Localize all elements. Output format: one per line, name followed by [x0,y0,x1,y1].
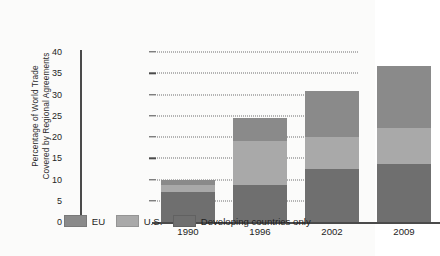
x-tick-label: 1990 [177,226,198,237]
y-tick-mark [149,51,156,52]
legend-item: Developing countries only [173,215,310,227]
y-tick-mark [149,115,156,116]
y-tick-mark [149,94,156,95]
bar-segment [377,66,432,128]
y-tick-mark [149,179,156,180]
legend-item: U.S. [116,215,162,227]
bar-segment [377,128,432,165]
legend-label: Developing countries only [201,216,311,227]
bar-segment [305,91,360,137]
gridline [157,73,358,74]
x-tick-label: 2009 [393,226,414,237]
plot-area: 0510152025303540 1990199620022009 [80,26,358,196]
y-axis-line [80,50,82,224]
bar-segment [161,185,216,192]
legend-swatch [64,215,87,227]
y-tick-mark [149,200,156,201]
bar-segment [377,164,432,222]
y-axis-title-line1: Percentage of World Trade [30,65,40,167]
chart-legend: EUU.S.Developing countries only [0,215,375,227]
x-tick-label: 2002 [321,226,342,237]
y-tick-label: 30 [42,90,62,100]
y-tick-label: 15 [42,153,62,163]
gridline [157,52,358,53]
bar-segment [305,137,360,169]
y-tick-mark [149,73,156,74]
bar-2009 [377,66,432,222]
y-tick-mark [149,136,156,137]
bar-1996 [233,118,288,222]
legend-item: EU [64,215,105,227]
legend-label: U.S. [144,216,163,227]
bar-segment [233,118,288,141]
bar-2002 [305,91,360,222]
y-tick-label: 35 [42,68,62,78]
x-tick-label: 1996 [249,226,270,237]
bar-segment [233,141,288,185]
legend-swatch [116,215,139,227]
y-tick-label: 10 [42,175,62,185]
y-tick-label: 5 [42,196,62,206]
y-tick-mark [149,158,156,159]
legend-swatch [173,215,196,227]
legend-label: EU [92,216,105,227]
y-tick-label: 40 [42,47,62,57]
y-tick-label: 25 [42,111,62,121]
y-tick-label: 20 [42,132,62,142]
